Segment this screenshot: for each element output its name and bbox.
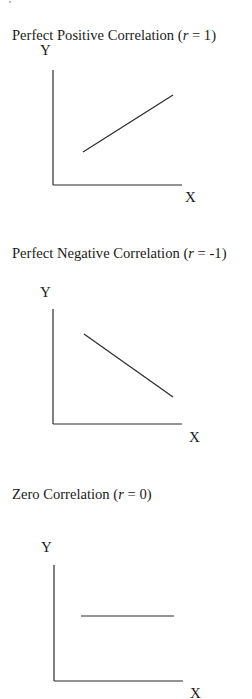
panel-2-plot <box>53 309 182 424</box>
panel-1-correlation-line <box>83 95 173 152</box>
correlation-diagrams <box>0 0 252 699</box>
panel-3-plot <box>54 565 183 681</box>
panel-2-correlation-line <box>84 334 173 397</box>
panel-1-plot <box>53 70 182 185</box>
